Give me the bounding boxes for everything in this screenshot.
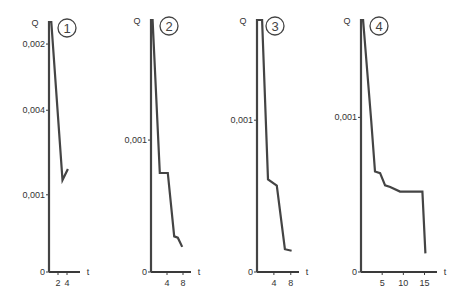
- panel-4-x-tick-label: 5: [380, 278, 385, 288]
- panel-1-y-axis-label: Q: [31, 18, 38, 28]
- panel-4-series-line: [361, 20, 425, 272]
- panel-4-y-tick-label: 0,001: [334, 112, 357, 122]
- panel-4-y-axis-label: Q: [343, 16, 350, 26]
- panel-2-y-tick-label: 0,001: [124, 135, 147, 145]
- panel-2-x-axis-label: t: [198, 267, 201, 277]
- panel-1-y-tick-label: 0,002: [22, 39, 45, 49]
- panel-2-x-tick-label: 8: [180, 278, 185, 288]
- panel-4-x-tick-label: 15: [420, 278, 430, 288]
- panel-2-series-line: [151, 20, 182, 272]
- panel-3-series-line: [257, 20, 292, 272]
- panel-1-y-tick-label: 0: [40, 267, 45, 277]
- panel-4-x-tick-label: 10: [398, 278, 408, 288]
- panel-4-y-tick-label: 0: [352, 267, 357, 277]
- panel-1-series-line: [49, 22, 68, 272]
- panel-3-number-label: 3: [271, 19, 278, 34]
- panel-3-x-tick-label: 4: [271, 278, 276, 288]
- panel-4-number-label: 4: [375, 19, 382, 34]
- panel-1-x-tick-label: 4: [64, 278, 69, 288]
- panel-2-number-label: 2: [165, 19, 172, 34]
- panel-2-y-axis-label: Q: [133, 16, 140, 26]
- panel-1-x-tick-label: 2: [55, 278, 60, 288]
- panel-4-x-axis-label: t: [444, 267, 447, 277]
- panel-3-y-axis-label: Q: [239, 16, 246, 26]
- panel-3-y-tick-label: 0,001: [230, 115, 253, 125]
- panel-2-x-tick-label: 4: [164, 278, 169, 288]
- panel-2-y-tick-label: 0: [142, 267, 147, 277]
- panel-1-x-axis-label: t: [87, 267, 90, 277]
- panel-3-x-tick-label: 8: [288, 278, 293, 288]
- panel-3-y-tick-label: 0: [248, 267, 253, 277]
- panel-1-y-tick-label: 0,001: [22, 190, 45, 200]
- panel-1-number-label: 1: [63, 21, 70, 36]
- panel-1-y-tick-label: 0,004: [22, 105, 45, 115]
- panel-3-x-axis-label: t: [306, 267, 309, 277]
- figure: Qt0,0020,0040,0010241Qt0,0010482Qt0,0010…: [0, 0, 461, 304]
